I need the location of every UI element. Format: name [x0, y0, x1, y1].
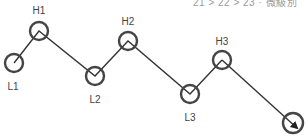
node-h2-label: H2: [122, 16, 135, 27]
cropped-header-text: 21 > 22 > 23 · 微級別: [193, 0, 297, 9]
node-l2-label: L2: [89, 94, 101, 105]
node-l3-label: L3: [184, 112, 196, 123]
node-h1-label: H1: [33, 5, 46, 16]
end-arrow-circle: [283, 113, 303, 133]
node-l1-label: L1: [7, 81, 19, 92]
node-h3-label: H3: [216, 36, 229, 47]
zigzag-diagram: L1 H1 L2 H2 L3 H3: [0, 0, 308, 136]
diagram-canvas: 21 > 22 > 23 · 微級別 L1 H1 L2 H2 L3 H3: [0, 0, 308, 136]
